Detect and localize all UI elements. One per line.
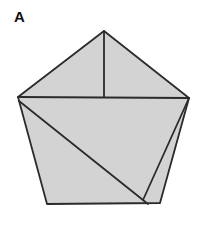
geometric-figure-svg [0,0,208,226]
figure-label: A [14,9,25,24]
horizontal-chord-line [18,97,189,98]
figure-panel: A [0,0,208,226]
